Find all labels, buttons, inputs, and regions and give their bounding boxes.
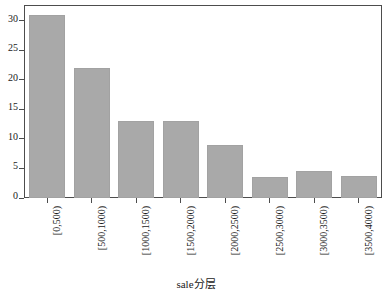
y-axis-tick-label: 25 <box>8 43 18 53</box>
x-axis-tick-label: [2000,2500) <box>230 206 240 255</box>
x-axis-title: sale分层 <box>0 278 392 290</box>
x-axis-tick-label: [3000,3500) <box>319 206 329 255</box>
y-axis-tick-mark <box>19 20 24 21</box>
x-axis-tick-mark <box>180 198 181 203</box>
y-axis-tick-label: 5 <box>13 161 18 171</box>
bar <box>207 145 243 198</box>
x-axis-tick-mark <box>225 198 226 203</box>
x-axis-tick-label: [3500,4000) <box>364 206 374 255</box>
y-axis: 051015202530 <box>0 0 24 199</box>
y-axis-tick-mark <box>19 50 24 51</box>
y-axis-tick-mark <box>19 79 24 80</box>
y-axis-tick-label: 15 <box>8 102 18 112</box>
y-axis-tick-label: 10 <box>8 132 18 142</box>
x-axis-tick-mark <box>47 198 48 203</box>
bar <box>29 15 65 198</box>
y-axis-tick-label: 30 <box>8 14 18 24</box>
y-axis-tick-mark <box>19 138 24 139</box>
bars-layer <box>25 6 381 198</box>
y-axis-tick-label: 0 <box>13 191 18 201</box>
y-axis-tick-mark <box>19 168 24 169</box>
x-axis-tick-mark <box>358 198 359 203</box>
x-axis-tick-mark <box>314 198 315 203</box>
x-axis-tick-label: [1500,2000) <box>186 206 196 255</box>
bar <box>74 68 110 198</box>
bar <box>163 121 199 198</box>
x-axis-tick-label: [500,1000) <box>97 206 107 250</box>
x-axis-tick-mark <box>136 198 137 203</box>
x-axis-tick-label: [0,500) <box>52 206 62 235</box>
x-axis-tick-label: [2500,3000) <box>275 206 285 255</box>
bar <box>296 171 332 198</box>
x-axis-tick-label: [1000,1500) <box>141 206 151 255</box>
x-axis-tick-mark <box>269 198 270 203</box>
y-axis-tick-label: 20 <box>8 73 18 83</box>
bar <box>118 121 154 198</box>
bar <box>252 177 288 198</box>
bar-chart: 051015202530 [0,500)[500,1000)[1000,1500… <box>0 0 392 302</box>
y-axis-tick-mark <box>19 109 24 110</box>
x-axis-tick-mark <box>91 198 92 203</box>
bar <box>341 176 377 198</box>
y-axis-tick-mark <box>19 198 24 199</box>
